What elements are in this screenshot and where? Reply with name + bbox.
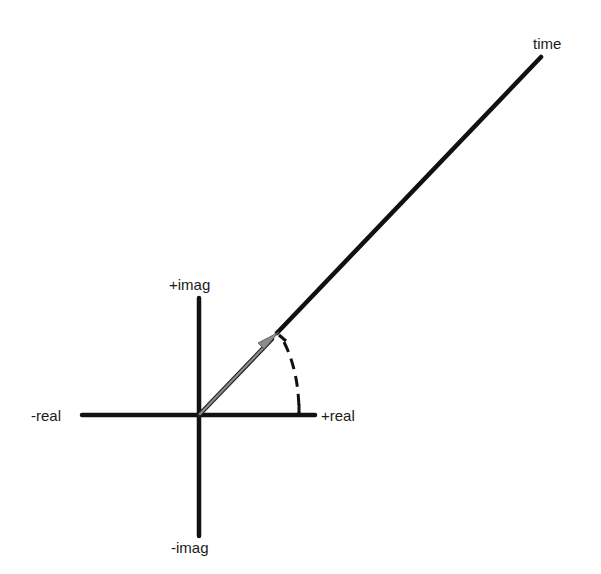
arc-start-tick (279, 335, 286, 341)
angle-arc-dashed (284, 342, 299, 413)
time-axis-line (277, 57, 541, 333)
label-time: time (533, 36, 561, 51)
phasor-vector (200, 341, 270, 414)
phasor-arrowhead-icon (258, 332, 279, 349)
label-neg-real: -real (31, 408, 61, 423)
label-pos-real: +real (321, 408, 355, 423)
label-pos-imag: +imag (169, 277, 210, 292)
complex-plane-diagram: time +imag -imag -real +real (0, 0, 601, 574)
diagram-svg (0, 0, 601, 574)
label-neg-imag: -imag (171, 540, 209, 555)
